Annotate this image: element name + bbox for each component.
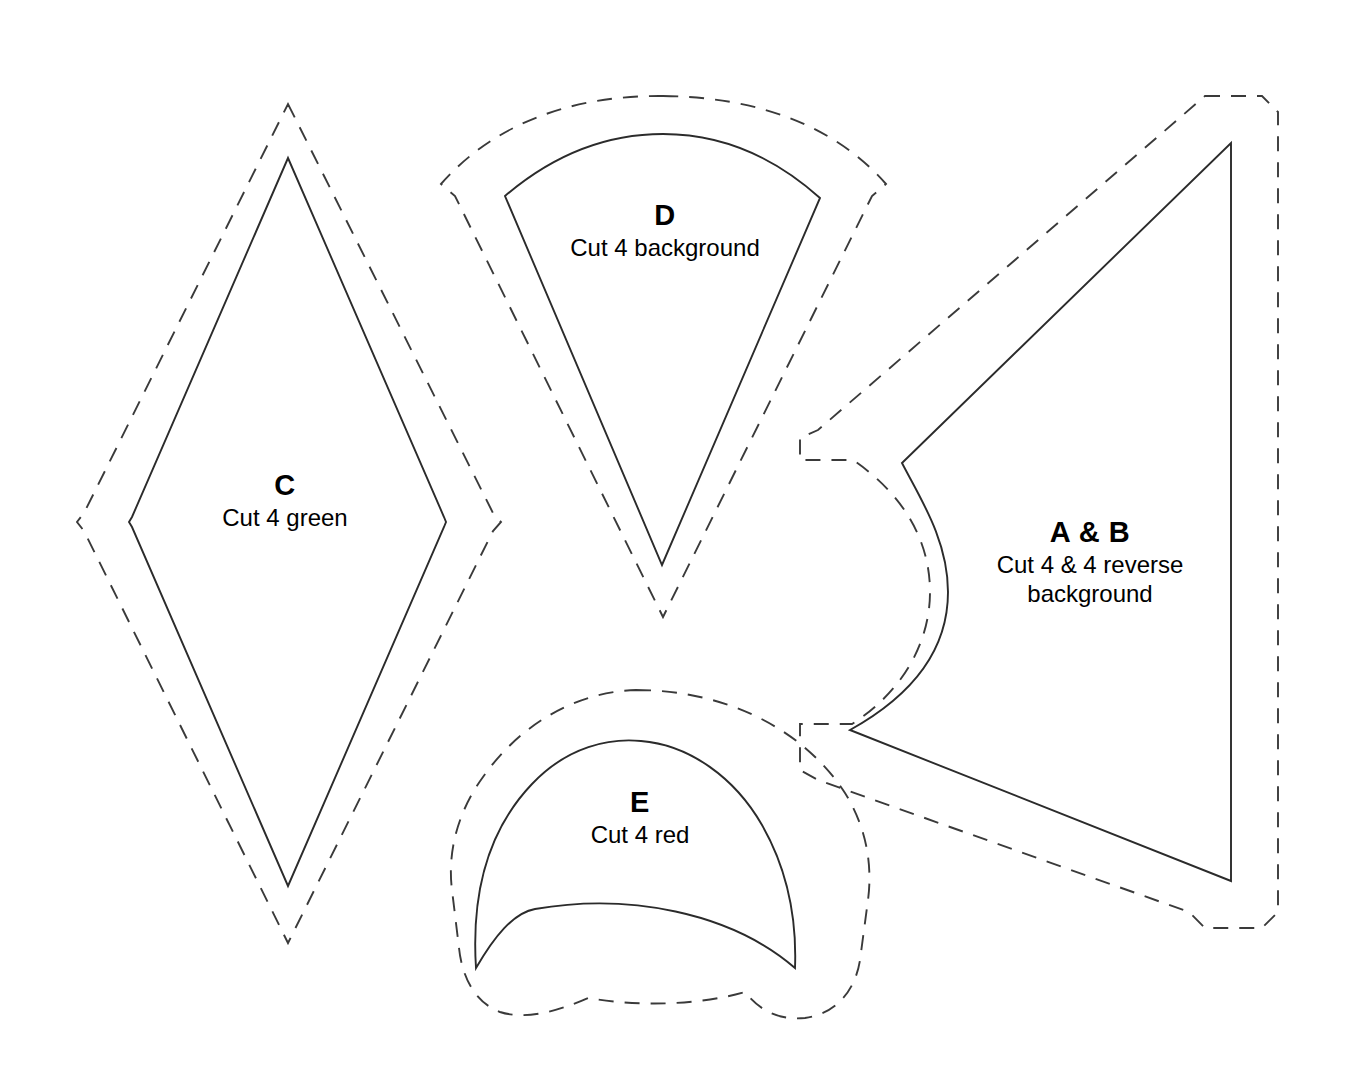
piece-e-seam-allowance-dashed-outline (451, 690, 870, 1018)
piece-ab-cut-instruction-line-1: Cut 4 & 4 reverse (965, 551, 1215, 579)
piece-ab-cutting-line (850, 143, 1231, 881)
piece-ab-letter: A & B (965, 515, 1215, 549)
piece-ab-group (800, 96, 1278, 928)
piece-e-cut-instruction: Cut 4 red (530, 821, 750, 849)
piece-d-letter: D (540, 198, 790, 232)
piece-d-cut-instruction: Cut 4 background (540, 234, 790, 262)
piece-e-cutting-line (475, 740, 795, 968)
piece-d-label: D Cut 4 background (540, 198, 790, 263)
piece-ab-seam-allowance-dashed-outline (800, 96, 1278, 928)
piece-e-label: E Cut 4 red (530, 785, 750, 850)
piece-ab-label: A & B Cut 4 & 4 reverse background (965, 515, 1215, 608)
pattern-sheet: C Cut 4 green D Cut 4 background A & B C… (0, 0, 1355, 1086)
piece-d-group (441, 96, 886, 617)
piece-c-cut-instruction: Cut 4 green (160, 504, 410, 532)
piece-e-group (451, 690, 870, 1018)
piece-e-letter: E (530, 785, 750, 819)
piece-c-label: C Cut 4 green (160, 468, 410, 533)
piece-c-letter: C (160, 468, 410, 502)
piece-ab-cut-instruction-line-2: background (965, 580, 1215, 608)
piece-d-seam-allowance-dashed-outline (441, 96, 886, 617)
